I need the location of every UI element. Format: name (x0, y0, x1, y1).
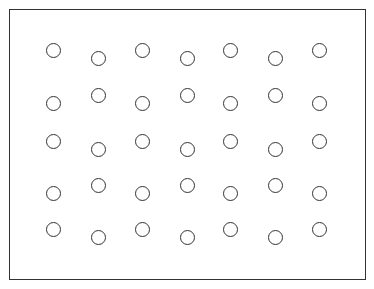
circle-icon (91, 230, 106, 245)
circle-icon (180, 230, 195, 245)
circle-icon (180, 88, 195, 103)
circle-icon (135, 134, 150, 149)
circle-icon (312, 222, 327, 237)
circle-icon (135, 96, 150, 111)
circle-icon (312, 96, 327, 111)
circle-icon (46, 43, 61, 58)
circle-icon (46, 134, 61, 149)
circle-icon (223, 43, 238, 58)
circle-icon (180, 51, 195, 66)
figure-canvas (0, 0, 374, 289)
circle-icon (180, 142, 195, 157)
circle-icon (223, 222, 238, 237)
circle-icon (135, 186, 150, 201)
circle-icon (91, 88, 106, 103)
circle-icon (46, 222, 61, 237)
circle-icon (91, 51, 106, 66)
circle-icon (135, 222, 150, 237)
circle-icon (180, 178, 195, 193)
circle-icon (268, 88, 283, 103)
circle-icon (268, 230, 283, 245)
circle-icon (91, 142, 106, 157)
circle-icon (223, 96, 238, 111)
circle-icon (268, 142, 283, 157)
circle-icon (223, 186, 238, 201)
circle-icon (46, 96, 61, 111)
circle-icon (46, 186, 61, 201)
circle-icon (312, 43, 327, 58)
circle-icon (135, 43, 150, 58)
circle-icon (268, 51, 283, 66)
circle-icon (91, 178, 106, 193)
circle-icon (312, 134, 327, 149)
circle-icon (223, 134, 238, 149)
circle-icon (312, 186, 327, 201)
circle-icon (268, 178, 283, 193)
